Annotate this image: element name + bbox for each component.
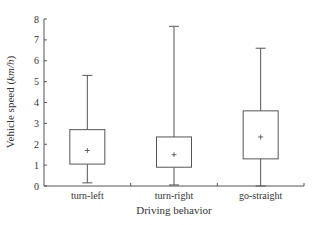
y-tick-label: 2 [34,139,39,150]
y-tick-label: 3 [34,118,39,129]
iqr-box [157,137,192,167]
boxes: turn-leftturn-rightgo-straight [70,26,283,201]
y-tick-label: 5 [34,76,39,87]
box-turn-right: turn-right [155,26,194,201]
box-plot-chart: 012345678 turn-leftturn-rightgo-straight… [0,0,318,225]
y-tick-label: 0 [34,181,39,192]
box-go-straight: go-straight [239,48,283,201]
y-tick-label: 7 [34,34,39,45]
x-tick-label: turn-right [155,190,194,201]
y-axis-label: Vehicle speed (km/h) [4,56,17,149]
y-tick-label: 6 [34,55,39,66]
y-tick-label: 4 [34,97,39,108]
x-axis-label: Driving behavior [136,204,212,216]
iqr-box [70,130,105,164]
y-tick-label: 1 [34,160,39,171]
x-tick-label: go-straight [239,190,283,201]
y-tick-label: 8 [34,14,39,25]
x-tick-label: turn-left [71,190,104,201]
box-turn-left: turn-left [70,75,105,201]
